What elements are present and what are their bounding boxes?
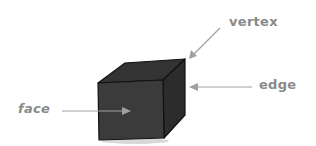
vertex-arrow [189, 28, 220, 59]
edge-arrow [189, 83, 252, 91]
vertex-label: vertex [229, 14, 278, 29]
cube-front-face [98, 80, 164, 140]
face-label: face [18, 101, 50, 116]
edge-label: edge [259, 77, 296, 92]
